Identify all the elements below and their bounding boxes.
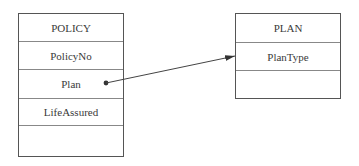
relationship-arrow	[0, 0, 359, 166]
relationship-line	[106, 56, 235, 83]
